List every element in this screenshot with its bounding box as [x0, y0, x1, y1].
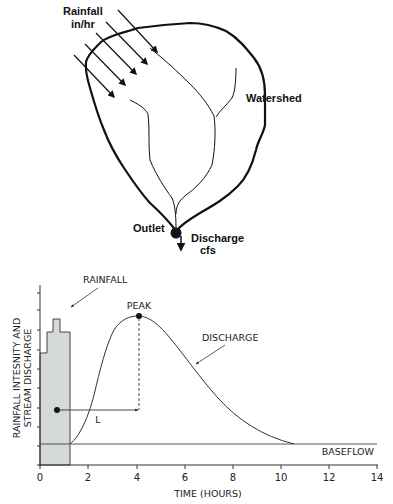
x-tick-label: 8 [230, 472, 236, 483]
x-tick-labels: 0 2 4 6 8 10 12 14 [37, 472, 384, 483]
peak-label: PEAK [127, 300, 152, 311]
x-tick-label: 14 [371, 472, 384, 483]
rain-arrow-icon [96, 33, 136, 74]
rain-arrow-icon [118, 10, 157, 52]
discharge-callout-pointer [196, 345, 225, 364]
x-tick-label: 12 [323, 472, 336, 483]
stream-main-left [130, 100, 176, 228]
discharge-units-label: cfs [200, 244, 216, 256]
discharge-curve [70, 316, 294, 444]
x-tick-label: 0 [37, 472, 43, 483]
rainfall-units-label: in/hr [71, 18, 96, 30]
rainfall-callout-label: RAINFALL [83, 274, 128, 285]
watershed-diagram: Rainfall in/hr Watershed Outlet Discharg… [63, 5, 302, 256]
diagram-canvas: Rainfall in/hr Watershed Outlet Discharg… [0, 0, 393, 504]
rainfall-centroid-point [54, 407, 60, 413]
rainfall-label: Rainfall [63, 5, 103, 17]
hydrograph-chart: 0 2 4 6 8 10 12 14 TIME (HOURS) RAINFALL… [11, 274, 383, 499]
rainfall-callout-pointer [71, 288, 98, 307]
y-axis-label-line1: RAINFALL INTESNITY AND [11, 318, 22, 439]
stream-tributary [216, 68, 236, 117]
outlet-label: Outlet [133, 222, 165, 234]
x-tick-label: 4 [134, 472, 140, 483]
rainfall-bars [40, 319, 70, 465]
rain-arrow-icon [74, 55, 114, 97]
x-tick-label: 10 [275, 472, 288, 483]
discharge-callout-label: DISCHARGE [202, 332, 258, 343]
y-axis-label-line2: STREAM DISCHARGE [22, 329, 33, 428]
x-axis-label: TIME (HOURS) [173, 488, 241, 499]
outlet-point [171, 228, 182, 239]
x-tick-label: 6 [182, 472, 188, 483]
x-ticks [40, 465, 377, 469]
x-tick-label: 2 [85, 472, 91, 483]
watershed-boundary [86, 23, 265, 231]
lag-label: L [95, 414, 101, 425]
discharge-label: Discharge [191, 232, 244, 244]
watershed-label: Watershed [246, 92, 302, 104]
baseflow-label: BASEFLOW [322, 446, 375, 457]
stream-main-right [150, 48, 215, 214]
rain-arrow-icon [85, 44, 125, 85]
